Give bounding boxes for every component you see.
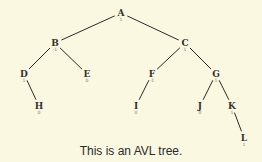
- tree-nodes: A1B-1C1D1E0F-1G1H0I0J0K1L1: [20, 8, 248, 147]
- tree-node-C: C1: [181, 38, 188, 52]
- edge-B-D: [29, 48, 50, 69]
- balance-factor-label: 1: [184, 47, 187, 52]
- edge-B-E: [60, 48, 82, 69]
- tree-node-B: B-1: [51, 38, 59, 52]
- balance-factor-label: 1: [231, 110, 234, 115]
- tree-node-E: E0: [84, 69, 91, 83]
- tree-node-F: F-1: [149, 69, 156, 83]
- balance-factor-label: 0: [135, 110, 138, 115]
- edge-K-L: [234, 113, 241, 132]
- diagram-caption: This is an AVL tree.: [0, 144, 262, 158]
- balance-factor-label: 1: [215, 78, 218, 83]
- balance-factor-label: 0: [199, 110, 202, 115]
- edge-G-K: [219, 80, 229, 99]
- edge-A-C: [127, 16, 178, 40]
- edge-D-H: [27, 80, 36, 99]
- balance-factor-label: -1: [150, 78, 155, 83]
- edge-C-F: [157, 48, 180, 69]
- balance-factor-label: 0: [86, 78, 89, 83]
- balance-factor-label: 1: [120, 17, 123, 22]
- balance-factor-label: 0: [38, 110, 41, 115]
- tree-node-I: I0: [134, 101, 138, 115]
- edge-A-B: [61, 16, 114, 40]
- edge-C-G: [190, 48, 211, 69]
- balance-factor-label: -1: [53, 47, 58, 52]
- tree-node-J: J0: [197, 101, 202, 115]
- tree-node-H: H0: [35, 101, 44, 115]
- tree-node-K: K1: [228, 101, 237, 115]
- edge-G-J: [203, 80, 213, 99]
- balance-factor-label: 1: [23, 78, 26, 83]
- avl-tree-diagram: A1B-1C1D1E0F-1G1H0I0J0K1L1: [0, 0, 262, 162]
- tree-node-A: A1: [117, 8, 126, 22]
- tree-node-G: G1: [212, 69, 220, 83]
- edge-F-I: [139, 80, 149, 99]
